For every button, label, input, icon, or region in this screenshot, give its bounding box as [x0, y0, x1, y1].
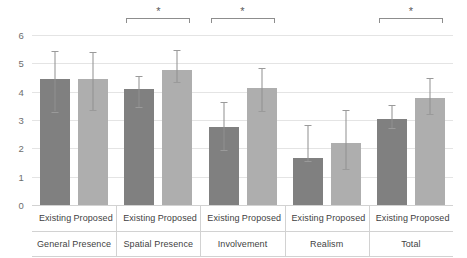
error-bar-cap-top	[90, 52, 97, 53]
x-group-label-spatial-presence: Spatial Presence	[116, 231, 200, 257]
bar-slot	[124, 35, 154, 205]
y-tick-label-4: 4	[19, 86, 24, 97]
bracket-tick-right	[274, 18, 275, 23]
error-bar-cap-bottom	[174, 82, 181, 83]
bracket-tick-left	[379, 18, 380, 23]
x-axis-separator	[285, 205, 286, 231]
x-axis-separator	[369, 231, 370, 257]
bar-spatial-presence-proposed	[162, 70, 192, 205]
error-bar-cap-top	[258, 68, 265, 69]
bar-slot	[293, 35, 323, 205]
significance-bracket-involvement: *	[211, 10, 275, 30]
error-bar-cap-bottom	[258, 111, 265, 112]
x-group-label-general-presence: General Presence	[32, 231, 116, 257]
x-group-label-involvement: Involvement	[200, 231, 284, 257]
bar-slot	[331, 35, 361, 205]
bar-chart: 0123456 *** ExistingProposedExistingProp…	[0, 0, 467, 258]
error-bar	[93, 52, 94, 110]
x-group-label-total: Total	[369, 231, 453, 257]
x-axis-group-row: General PresenceSpatial PresenceInvolvem…	[32, 231, 453, 257]
error-bar	[429, 78, 430, 114]
error-bar-cap-bottom	[220, 150, 227, 151]
bracket-tick-right	[189, 18, 190, 23]
x-axis-separator	[116, 231, 117, 257]
error-bar-cap-top	[342, 110, 349, 111]
x-tick-proposed: Proposed	[411, 205, 449, 231]
error-bar-cap-bottom	[52, 112, 59, 113]
error-bar-cap-bottom	[342, 169, 349, 170]
x-axis-separator	[285, 231, 286, 257]
error-bar	[139, 76, 140, 107]
bar-slot	[247, 35, 277, 205]
y-tick-label-3: 3	[19, 115, 24, 126]
x-axis-separator	[200, 231, 201, 257]
bars-layer	[32, 35, 453, 205]
x-axis-separator	[116, 205, 117, 231]
error-bar-cap-bottom	[136, 107, 143, 108]
significance-asterisk: *	[379, 6, 443, 17]
x-tick-proposed: Proposed	[243, 205, 281, 231]
x-tick-existing: Existing	[205, 205, 243, 231]
significance-bracket-total: *	[379, 10, 443, 30]
error-bar-cap-top	[426, 78, 433, 79]
error-bar	[345, 110, 346, 168]
significance-asterisk: *	[211, 6, 275, 17]
y-tick-label-1: 1	[19, 171, 24, 182]
x-tick-proposed: Proposed	[327, 205, 365, 231]
error-bar	[223, 102, 224, 151]
error-bar-cap-top	[220, 102, 227, 103]
x-tick-proposed: Proposed	[158, 205, 196, 231]
x-tick-proposed: Proposed	[74, 205, 112, 231]
bar-slot	[40, 35, 70, 205]
error-bar-cap-top	[174, 50, 181, 51]
bracket-tick-right	[442, 18, 443, 23]
significance-bracket-spatial-presence: *	[126, 10, 190, 30]
y-tick-label-2: 2	[19, 143, 24, 154]
x-tick-existing: Existing	[289, 205, 327, 231]
x-tick-existing: Existing	[373, 205, 411, 231]
error-bar-cap-top	[136, 76, 143, 77]
error-bar	[55, 51, 56, 111]
bar-realism-existing	[293, 158, 323, 205]
error-bar-cap-bottom	[304, 161, 311, 162]
x-tick-existing: Existing	[120, 205, 158, 231]
bar-slot	[78, 35, 108, 205]
x-axis-separator	[200, 205, 201, 231]
bracket-line	[379, 18, 443, 19]
bracket-tick-left	[126, 18, 127, 23]
significance-asterisk: *	[126, 6, 190, 17]
error-bar-cap-bottom	[90, 110, 97, 111]
error-bar-cap-top	[304, 125, 311, 126]
bracket-line	[211, 18, 275, 19]
y-tick-label-0: 0	[19, 200, 24, 211]
error-bar	[261, 68, 262, 111]
bar-total-existing	[377, 119, 407, 205]
y-axis: 0123456	[0, 0, 32, 258]
bracket-tick-left	[211, 18, 212, 23]
y-tick-label-6: 6	[19, 30, 24, 41]
x-axis-separator	[369, 205, 370, 231]
x-axis-series-row: ExistingProposedExistingProposedExisting…	[32, 205, 453, 231]
bar-slot	[209, 35, 239, 205]
x-group-label-realism: Realism	[285, 231, 369, 257]
y-tick-label-5: 5	[19, 58, 24, 69]
bar-slot	[415, 35, 445, 205]
bar-slot	[162, 35, 192, 205]
x-axis: ExistingProposedExistingProposedExisting…	[32, 205, 453, 257]
error-bar	[177, 50, 178, 83]
bracket-line	[126, 18, 190, 19]
error-bar-cap-top	[52, 51, 59, 52]
error-bar	[391, 105, 392, 128]
x-tick-existing: Existing	[36, 205, 74, 231]
error-bar-cap-top	[388, 105, 395, 106]
error-bar-cap-bottom	[426, 114, 433, 115]
bar-slot	[377, 35, 407, 205]
error-bar	[307, 125, 308, 161]
significance-annotations: ***	[32, 0, 453, 40]
error-bar-cap-bottom	[388, 128, 395, 129]
